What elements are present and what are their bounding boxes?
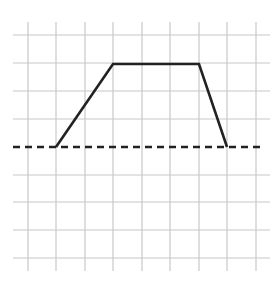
trapezoid-graph-diagram bbox=[0, 0, 278, 287]
